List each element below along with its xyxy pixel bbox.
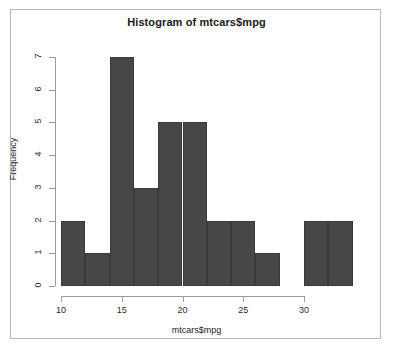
histogram-bar <box>134 188 158 286</box>
y-axis-tick-label: 1 <box>33 244 43 260</box>
histogram-bar <box>231 221 255 286</box>
histogram-bar <box>304 221 328 286</box>
y-axis-tick <box>49 221 55 222</box>
x-axis-tick-label: 20 <box>171 305 195 315</box>
screenshot-root: Histogram of mtcars$mpg 01234567 1015202… <box>0 0 393 353</box>
histogram-bar <box>158 122 182 286</box>
histogram-bar <box>85 253 109 286</box>
x-axis-title: mtcars$mpg <box>0 325 393 335</box>
x-axis-tick-label: 30 <box>292 305 316 315</box>
x-axis-tick-label: 10 <box>49 305 73 315</box>
x-axis-tick <box>122 296 123 302</box>
x-axis-tick-label: 15 <box>110 305 134 315</box>
plot-area: 01234567 1015202530 mtcars$mpg Frequency <box>0 0 393 353</box>
y-axis-tick-label: 2 <box>33 212 43 228</box>
x-axis-tick <box>183 296 184 302</box>
y-axis-tick <box>49 188 55 189</box>
x-axis-tick-label: 25 <box>231 305 255 315</box>
histogram-bar <box>183 122 207 286</box>
y-axis-tick-label: 5 <box>33 113 43 129</box>
y-axis-tick <box>49 122 55 123</box>
histogram-bar <box>110 57 134 286</box>
y-axis-tick <box>49 155 55 156</box>
x-axis-tick <box>304 296 305 302</box>
histogram-bar <box>61 221 85 286</box>
y-axis-tick <box>49 90 55 91</box>
y-axis-line <box>55 57 56 286</box>
y-axis-tick-label: 0 <box>33 277 43 293</box>
y-axis-tick-label: 6 <box>33 81 43 97</box>
histogram-bar <box>328 221 352 286</box>
y-axis-tick <box>49 253 55 254</box>
x-axis-tick <box>61 296 62 302</box>
histogram-bar <box>255 253 279 286</box>
y-axis-tick-label: 4 <box>33 146 43 162</box>
y-axis-tick-label: 7 <box>33 48 43 64</box>
y-axis-tick <box>49 286 55 287</box>
y-axis-tick <box>49 57 55 58</box>
y-axis-title: Frequency <box>8 129 18 189</box>
y-axis-tick-label: 3 <box>33 179 43 195</box>
x-axis-tick <box>243 296 244 302</box>
histogram-bar <box>207 221 231 286</box>
